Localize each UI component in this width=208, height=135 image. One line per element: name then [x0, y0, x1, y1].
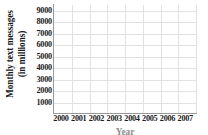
- plot-area: [54, 5, 196, 113]
- y-axis-line: [53, 4, 54, 114]
- y-tick-label-3000: 3000: [22, 76, 52, 84]
- gridline-x-2003: [107, 5, 108, 113]
- gridline-x-2004: [125, 5, 126, 113]
- y-tick-label-5000: 5000: [22, 53, 52, 61]
- y-tick-label-2000: 2000: [22, 87, 52, 95]
- chart-container: Monthly text messages (in millions) 9000…: [0, 0, 208, 135]
- x-axis-tick-labels: 2000 2001 2002 2003 2004 2005 2006 2007: [54, 114, 206, 125]
- y-axis-title-line-1: Monthly text messages: [5, 0, 17, 110]
- gridline-x-2005: [143, 5, 144, 113]
- y-tick-label-9000: 9000: [22, 7, 52, 15]
- x-axis-title: Year: [54, 127, 196, 135]
- y-tick-label-6000: 6000: [22, 41, 52, 49]
- gridline-x-2007: [178, 5, 179, 113]
- gridline-x-2002: [90, 5, 91, 113]
- y-tick-label-4000: 4000: [22, 64, 52, 72]
- gridline-x-2006: [161, 5, 162, 113]
- gridline-x-right-edge: [196, 5, 197, 113]
- y-tick-label-7000: 7000: [22, 30, 52, 38]
- y-tick-label-1000: 1000: [22, 99, 52, 107]
- gridline-x-2001: [72, 5, 73, 113]
- y-axis-tick-labels: 9000 8000 7000 6000 5000 4000 3000 2000 …: [22, 0, 52, 113]
- vertical-gridlines: [54, 5, 196, 113]
- x-tick-label-2007: 2007: [174, 114, 196, 124]
- y-tick-label-8000: 8000: [22, 18, 52, 26]
